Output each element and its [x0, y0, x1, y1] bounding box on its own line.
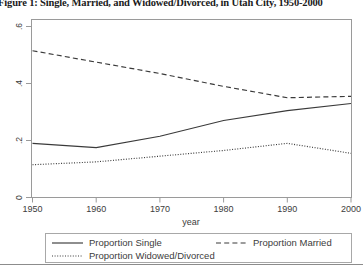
x-tick-label-1980: 1980 — [214, 204, 234, 214]
x-axis-title: year — [182, 217, 200, 227]
y-axis-tick-labels: .6 .4 .2 0 — [14, 23, 24, 200]
legend-label-married: Proportion Married — [253, 237, 332, 248]
x-tick-label-1960: 1960 — [86, 204, 106, 214]
x-tick-label-1990: 1990 — [277, 204, 297, 214]
y-tick-label-3: .6 — [14, 23, 24, 30]
x-tick-label-1950: 1950 — [22, 204, 42, 214]
series-proportion-single — [33, 103, 352, 147]
y-tick-label-1: .2 — [14, 137, 24, 144]
series-proportion-married — [33, 51, 352, 98]
x-tick-label-2000: 2000 — [341, 204, 361, 214]
x-axis-ticks — [33, 198, 352, 203]
figure-container: Figure 1: Single, Married, and Widowed/D… — [0, 0, 363, 265]
y-tick-label-0: 0 — [14, 195, 24, 200]
x-axis-tick-labels: 1950 1960 1970 1980 1990 2000 — [22, 204, 361, 214]
x-tick-label-1970: 1970 — [150, 204, 170, 214]
legend-label-widowed: Proportion Widowed/Divorced — [89, 250, 215, 261]
legend-label-single: Proportion Single — [89, 237, 162, 248]
y-axis-ticks — [26, 27, 32, 198]
chart-svg: .6 .4 .2 0 1950 1960 1970 1980 1990 2000… — [0, 6, 363, 265]
chart-legend: Proportion Single Proportion Married Pro… — [46, 234, 352, 263]
y-tick-label-2: .4 — [14, 80, 24, 87]
